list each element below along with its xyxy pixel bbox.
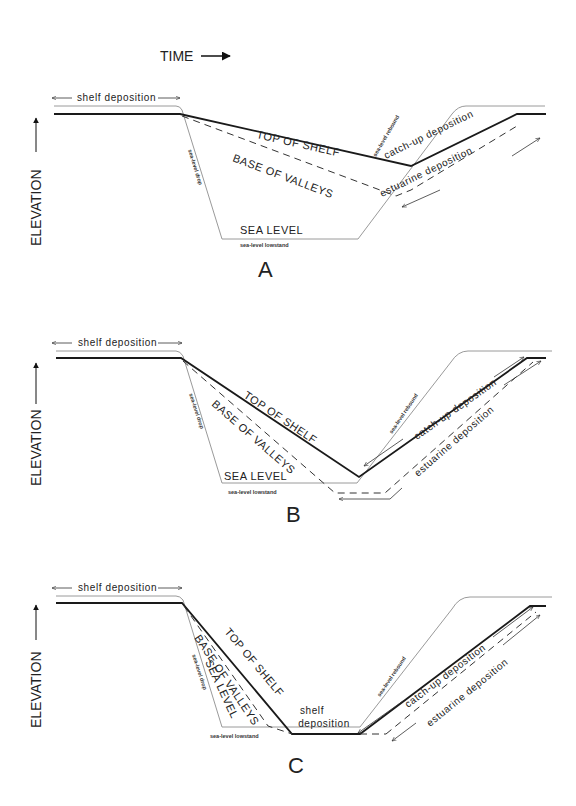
sea-level-rebound-label: sea-level rebound [388, 392, 419, 434]
sea-level-drop-label: sea-level drop [188, 392, 205, 430]
sea-level-diagram: TIME ELEVATION shelf deposition TOP OF S… [0, 0, 576, 806]
sea-level-drop-label: sea-level drop [187, 149, 204, 187]
diagram-canvas: TIME ELEVATION shelf deposition TOP OF S… [0, 0, 576, 806]
elevation-axis: ELEVATION [28, 363, 44, 486]
sea-level-drop-label: sea-level drop [191, 653, 208, 691]
time-axis-label: TIME [160, 48, 230, 64]
sea-level-lowstand-label: sea-level lowstand [228, 489, 277, 495]
sea-level-lowstand-label: sea-level lowstand [240, 242, 289, 248]
sea-level-label: SEA LEVEL [224, 470, 287, 482]
lower-shelf-deposition-label-2: deposition [298, 718, 350, 729]
sea-level-lowstand-label: sea-level lowstand [210, 733, 259, 739]
shelf-deposition-label: shelf deposition [77, 92, 156, 103]
elevation-axis: ELEVATION [28, 605, 44, 728]
catch-up-deposition-label: catch-up deposition [403, 642, 488, 710]
panel-a: ELEVATION shelf deposition TOP OF SHELF … [28, 92, 546, 282]
base-of-valleys-label: BASE OF VALLEYS [231, 152, 335, 200]
svg-text:ELEVATION: ELEVATION [28, 409, 44, 486]
shelf-deposition-label: shelf deposition [78, 582, 157, 593]
panel-letter-b: B [286, 502, 301, 527]
sea-level-rebound-label: sea-level rebound [376, 655, 407, 697]
lower-shelf-deposition-label-1: shelf [300, 705, 324, 716]
top-of-shelf-label: TOP OF SHELF [256, 128, 342, 158]
svg-text:TIME: TIME [160, 48, 193, 64]
svg-text:ELEVATION: ELEVATION [28, 169, 44, 246]
elevation-axis: ELEVATION [28, 118, 44, 246]
svg-text:ELEVATION: ELEVATION [28, 651, 44, 728]
sea-level-line [54, 106, 545, 239]
sea-level-label: SEA LEVEL [240, 224, 303, 236]
panel-letter-c: C [288, 753, 304, 778]
panel-letter-a: A [258, 257, 273, 282]
panel-b: ELEVATION shelf deposition TOP OF SHELF … [28, 337, 552, 527]
base-of-valleys-line-right [386, 612, 536, 734]
base-of-valleys-label: BASE OF VALLEYS [210, 397, 298, 476]
panel-c: ELEVATION shelf deposition TOP OF SHELF … [28, 582, 552, 778]
shelf-deposition-label: shelf deposition [78, 337, 157, 348]
